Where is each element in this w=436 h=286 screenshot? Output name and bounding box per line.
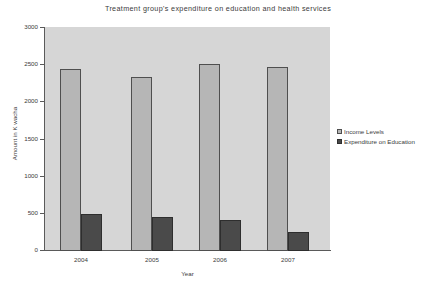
y-tick-label-500: 500 (0, 210, 38, 216)
y-tick-mark (40, 27, 44, 28)
y-tick-mark (40, 139, 44, 140)
x-axis-title: Year (45, 270, 330, 277)
legend-swatch-icon (337, 129, 342, 134)
legend-label: Expenditure on Education (344, 138, 415, 145)
x-tick-label-2007: 2007 (258, 256, 318, 263)
legend-label: Income Levels (344, 128, 384, 135)
y-tick-mark (40, 176, 44, 177)
y-tick-label-1500: 1500 (0, 136, 38, 142)
bar-income-2007 (267, 67, 288, 251)
chart-legend: Income Levels Expenditure on Education (337, 128, 435, 148)
y-tick-label-2000: 2000 (0, 98, 38, 104)
y-tick-label-3000: 3000 (0, 24, 38, 30)
bar-expenditure-2006 (220, 220, 241, 251)
y-tick-mark (40, 64, 44, 65)
bar-expenditure-2007 (288, 232, 309, 251)
x-tick-label-2004: 2004 (51, 256, 111, 263)
y-axis-title: Amount in K wacha (11, 94, 18, 174)
y-tick-label-0: 0 (0, 247, 38, 253)
legend-item-expenditure-on-education: Expenditure on Education (337, 138, 435, 145)
bar-chart: Treatment group's expenditure on educati… (0, 0, 436, 286)
legend-item-income-levels: Income Levels (337, 128, 435, 135)
x-tick-label-2005: 2005 (122, 256, 182, 263)
y-tick-label-2500: 2500 (0, 61, 38, 67)
y-tick-label-1000: 1000 (0, 173, 38, 179)
bar-income-2005 (131, 77, 152, 251)
bar-income-2004 (60, 69, 81, 251)
x-tick-label-2006: 2006 (190, 256, 250, 263)
legend-swatch-icon (337, 139, 342, 144)
y-tick-mark (40, 250, 44, 251)
bar-expenditure-2004 (81, 214, 102, 251)
chart-title: Treatment group's expenditure on educati… (0, 4, 436, 13)
bar-income-2006 (199, 64, 220, 251)
y-tick-mark (40, 101, 44, 102)
y-axis-line (44, 27, 45, 251)
y-tick-mark (40, 213, 44, 214)
bar-expenditure-2005 (152, 217, 173, 251)
